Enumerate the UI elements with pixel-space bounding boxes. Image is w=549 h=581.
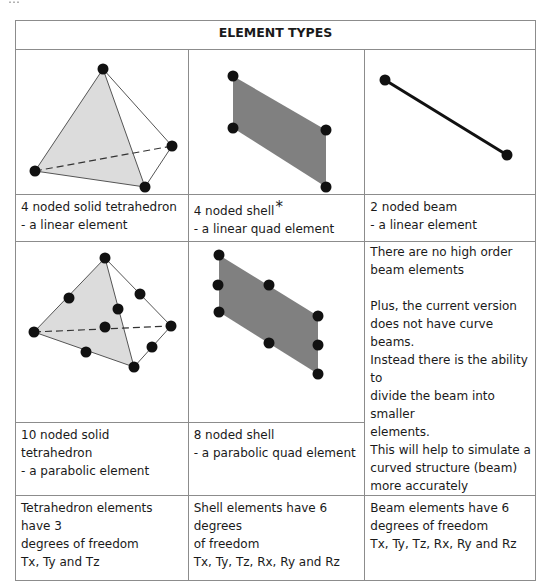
dof-line: Shell elements have 6 degrees [194,499,361,535]
node [312,369,323,380]
node [213,250,224,261]
dof-line: degrees of freedom [370,517,531,535]
dof-line: Tetrahedron elements have 3 [21,499,184,535]
node [167,141,178,152]
shell-face [219,255,318,374]
midside-node [312,340,323,351]
asterisk-footnote-marker: * [275,198,283,216]
node [30,166,41,177]
element-title: 10 noded solid tetrahedron [21,426,184,462]
beam2-label-cell: 2 noded beam - a linear element [365,195,536,242]
dof-line: Tx, Ty and Tz [21,553,184,571]
shell8-figure-cell [188,242,365,423]
note-line: divide the beam into smaller [370,387,531,423]
node [98,64,109,75]
element-subtitle: - a linear element [21,216,184,234]
node [213,307,224,318]
element-title: 4 noded solid tetrahedron [21,198,184,216]
tetrahedron-10-node-figure [16,242,188,384]
midside-node [263,280,274,291]
dof-line: Tx, Ty, Tz, Rx, Ry and Rz [370,535,531,553]
shell8-label-cell: 8 noded shell - a parabolic quad element [188,422,365,495]
beam-2-node-figure [365,50,535,194]
tetra-shaded-face [35,69,145,187]
note-line: elements. [370,423,531,441]
midside-node [147,342,158,353]
tetra-dof-cell: Tetrahedron elements have 3 degrees of f… [16,496,189,581]
element-subtitle: - a linear element [370,216,531,234]
beam-line [385,80,507,155]
midside-node [81,347,92,358]
tetra10-figure-cell [16,242,189,423]
node [29,327,40,338]
note-line: beam elements [370,261,531,279]
cropped-intro-text: … [8,0,298,3]
cropped-intro-line: … [8,0,298,3]
shell4-label-cell: 4 noded shell* - a linear quad element [188,195,365,242]
note-line: Plus, the current version [370,297,531,315]
shell4-figure-cell [188,50,365,195]
node [320,125,331,136]
node [502,150,513,161]
note-line: Instead there is the ability to [370,351,531,387]
midside-node [135,289,146,300]
beam2-figure-cell [365,50,536,195]
tetra4-label-cell: 4 noded solid tetrahedron - a linear ele… [16,195,189,242]
node [166,321,177,332]
note-line: This will help to simulate a [370,441,531,459]
element-title: 4 noded shell [194,204,275,218]
node [227,71,238,82]
tetra10-label-cell: 10 noded solid tetrahedron - a parabolic… [16,422,189,495]
element-subtitle: - a parabolic quad element [194,444,361,462]
shell-8-node-figure [189,242,365,384]
element-title: 2 noded beam [370,198,531,216]
dof-line: degrees of freedom [21,535,184,553]
note-line: curved structure (beam) [370,459,531,477]
midside-node [64,293,75,304]
element-title: 8 noded shell [194,426,361,444]
element-subtitle: - a parabolic element [21,462,184,480]
midside-node [100,322,111,333]
shell-face [233,76,326,187]
tetrahedron-4-node-figure [16,50,188,194]
node [312,311,323,322]
node [227,123,238,134]
tetra-edge [145,146,172,187]
shell-4-node-figure [189,50,365,194]
midside-node [263,338,274,349]
shell-dof-cell: Shell elements have 6 degrees of freedom… [188,496,365,581]
dof-line: Tx, Ty, Tz, Rx, Ry and Rz [194,553,361,571]
element-types-table: ELEMENT TYPES [15,20,536,581]
beam-note-cell: There are no high order beam elements Pl… [365,242,536,496]
table-title: ELEMENT TYPES [219,25,333,40]
node [320,182,331,193]
dof-line: of freedom [194,535,361,553]
midside-node [212,280,223,291]
dof-line: Beam elements have 6 [370,499,531,517]
node [140,182,151,193]
beam-dof-cell: Beam elements have 6 degrees of freedom … [365,496,536,581]
note-line: does not have curve beams. [370,315,531,351]
table-header: ELEMENT TYPES [16,21,536,50]
note-line: more accurately [370,477,531,495]
tetra4-figure-cell [16,50,189,195]
midside-node [113,304,124,315]
note-line: There are no high order [370,243,531,261]
element-subtitle: - a linear quad element [194,220,361,238]
node [129,362,140,373]
node [380,75,391,86]
node [100,253,111,264]
